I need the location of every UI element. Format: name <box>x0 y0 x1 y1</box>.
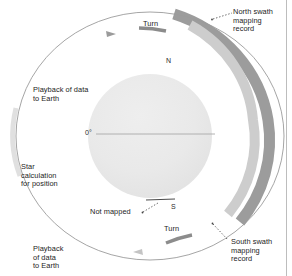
diagram-svg <box>0 0 292 276</box>
label-not-mapped: Not mapped <box>90 208 131 217</box>
label-turn-bottom: Turn <box>164 225 179 234</box>
label-north-swath: North swath mapping record <box>233 8 273 34</box>
label-south-swath: South swath mapping record <box>231 238 272 264</box>
orbit-direction-arrow-bottom <box>133 249 143 255</box>
not-mapped-leader-dot <box>142 212 144 214</box>
turn-segment-bottom <box>166 235 192 243</box>
south-swath-leader <box>213 224 228 240</box>
planet-sphere <box>88 74 212 198</box>
label-playback-top: Playback of data to Earth <box>33 86 88 103</box>
label-turn-top: Turn <box>143 20 158 29</box>
orbit-direction-arrow-top <box>106 31 116 37</box>
south-pole-tick <box>146 199 175 200</box>
label-star-calculation: Star calculation for position <box>21 163 58 189</box>
label-equator: 0° <box>85 129 92 136</box>
not-mapped-leader <box>143 203 158 212</box>
north-swath-leader-dot <box>211 19 213 21</box>
label-north-pole: N <box>166 57 171 64</box>
label-playback-bottom: Playback of data to Earth <box>33 245 63 271</box>
south-swath-leader-dot <box>212 223 214 225</box>
north-swath-leader <box>213 13 232 19</box>
figure-canvas: Turn Turn Playback of data to Earth Play… <box>0 0 292 276</box>
label-south-pole: S <box>171 203 176 210</box>
